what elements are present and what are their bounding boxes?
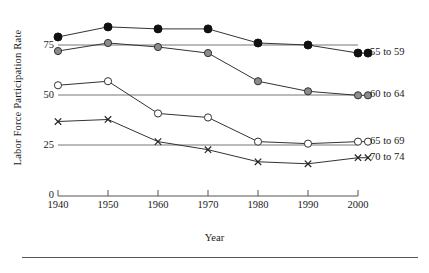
- x-tick-label-2000: 2000: [335, 199, 381, 210]
- x-tick-label-1980: 1980: [235, 199, 281, 210]
- data-point-marker: [204, 49, 211, 56]
- data-point-marker: [304, 140, 311, 147]
- data-point-marker: [254, 138, 261, 145]
- chart-figure: Labor Force Participation Rate 75 50 25 …: [0, 0, 429, 273]
- series-55-to-59: [54, 23, 372, 57]
- x-tick-label-1940: 1940: [35, 199, 81, 210]
- x-tick-label-1990: 1990: [285, 199, 331, 210]
- data-point-marker: [54, 33, 62, 41]
- data-point-marker: [254, 78, 261, 85]
- data-point-marker: [304, 41, 312, 49]
- series-label-60-to-64: 60 to 64: [370, 88, 404, 99]
- x-tick-label-1950: 1950: [85, 199, 131, 210]
- data-point-marker: [104, 39, 111, 46]
- series-line: [58, 81, 358, 143]
- data-point-marker: [154, 43, 161, 50]
- data-point-marker: [254, 39, 262, 47]
- data-point-marker: [154, 110, 161, 117]
- series-70-to-74: [55, 116, 371, 167]
- data-point-marker: [354, 138, 361, 145]
- series-60-to-64: [54, 39, 371, 99]
- data-point-marker: [204, 114, 211, 121]
- data-point-marker: [54, 82, 61, 89]
- data-point-marker: [54, 47, 61, 54]
- data-point-marker: [204, 25, 212, 33]
- data-point-marker: [154, 25, 162, 33]
- x-tick-label-1970: 1970: [185, 199, 231, 210]
- series-65-to-69: [54, 78, 371, 148]
- data-point-marker: [104, 23, 112, 31]
- data-point-marker: [304, 88, 311, 95]
- data-point-marker: [354, 49, 362, 57]
- bottom-divider: [22, 257, 418, 258]
- series-label-70-to-74: 70 to 74: [370, 151, 404, 162]
- series-label-55-to-59: 55 to 59: [370, 46, 404, 57]
- series-label-65-to-69: 65 to 69: [370, 135, 404, 146]
- data-point-marker: [104, 78, 111, 85]
- data-point-marker: [354, 92, 361, 99]
- x-tick-label-1960: 1960: [135, 199, 181, 210]
- series-line: [58, 119, 358, 163]
- x-axis-title: Year: [0, 232, 429, 243]
